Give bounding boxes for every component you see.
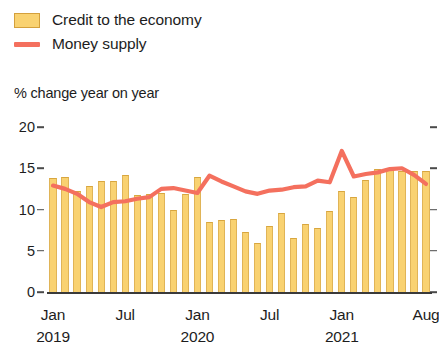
x-axis-tick-label: Jul — [260, 306, 279, 324]
x-axis-year-label: 2021 — [325, 328, 359, 346]
x-axis-year-label: 2020 — [181, 328, 215, 346]
x-axis-tick-label: Jan — [41, 306, 65, 324]
chart-figure: Credit to the economy Money supply % cha… — [0, 0, 439, 351]
line-path — [53, 151, 426, 207]
x-axis-tick-label: Jan — [185, 306, 209, 324]
x-axis-year-label: 2019 — [36, 328, 70, 346]
money-supply-line — [0, 0, 439, 351]
x-axis-tick-label: Jul — [116, 306, 135, 324]
x-axis-tick-label: Jan — [330, 306, 354, 324]
plot-area: 20151050Jan2019JulJan2020JulJan2021Aug — [0, 0, 439, 351]
x-axis-tick-label: Aug — [412, 306, 439, 324]
